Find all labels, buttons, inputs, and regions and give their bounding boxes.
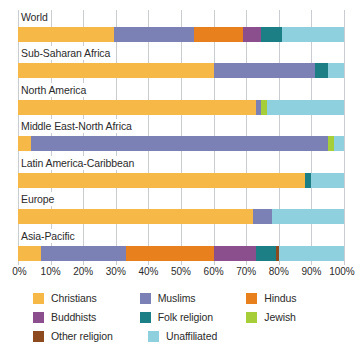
row-label: World xyxy=(20,10,50,24)
bar-segment-unaffiliated xyxy=(328,63,344,78)
x-tick-label: 100% xyxy=(329,266,355,277)
bar-row: Middle East-North Africa xyxy=(18,119,344,155)
x-tick-label: 80% xyxy=(269,266,289,277)
x-tick-label: 0% xyxy=(12,266,26,277)
legend-swatch-icon xyxy=(246,312,257,323)
legend-label: Unaffiliated xyxy=(166,330,217,342)
row-label: North America xyxy=(20,83,88,97)
legend-row: Other religionUnaffiliated xyxy=(33,327,353,345)
stacked-bar-chart: WorldSub-Saharan AfricaNorth AmericaMidd… xyxy=(0,0,361,352)
bar-segment-buddhists xyxy=(243,27,261,42)
bar-row: North America xyxy=(18,83,344,119)
bar-segment-unaffiliated xyxy=(279,246,344,261)
legend-item-folk-religion[interactable]: Folk religion xyxy=(140,308,247,326)
stacked-bar xyxy=(18,27,344,42)
legend-swatch-icon xyxy=(140,312,151,323)
x-tick-label: 40% xyxy=(138,266,158,277)
bar-segment-muslims xyxy=(41,246,126,261)
legend-label: Christians xyxy=(51,292,97,304)
row-label: Asia-Pacific xyxy=(20,229,77,243)
legend-swatch-icon xyxy=(246,293,257,304)
bar-segment-folk-religion xyxy=(315,63,328,78)
bar-segment-christians xyxy=(18,246,41,261)
bar-row: Europe xyxy=(18,192,344,228)
stacked-bar xyxy=(18,209,344,224)
bar-segment-hindus xyxy=(126,246,214,261)
bar-segment-christians xyxy=(18,100,256,115)
legend-swatch-icon xyxy=(140,293,151,304)
bar-segment-christians xyxy=(18,209,253,224)
plot-area: WorldSub-Saharan AfricaNorth AmericaMidd… xyxy=(18,10,344,265)
legend-label: Buddhists xyxy=(51,311,96,323)
bar-row: Latin America-Caribbean xyxy=(18,156,344,192)
bar-segment-muslims xyxy=(214,63,315,78)
legend-label: Folk religion xyxy=(158,311,213,323)
chart-legend: ChristiansMuslimsHindusBuddhistsFolk rel… xyxy=(33,289,353,347)
row-label: Sub-Saharan Africa xyxy=(20,46,112,60)
legend-swatch-icon xyxy=(33,312,44,323)
bar-row: Asia-Pacific xyxy=(18,229,344,265)
bar-segment-unaffiliated xyxy=(267,100,344,115)
bar-segment-folk-religion xyxy=(261,27,282,42)
stacked-bar xyxy=(18,100,344,115)
stacked-bar xyxy=(18,136,344,151)
row-label: Middle East-North Africa xyxy=(20,119,134,133)
x-tick-label: 10% xyxy=(41,266,61,277)
bar-segment-unaffiliated xyxy=(311,173,344,188)
legend-label: Other religion xyxy=(51,330,113,342)
bar-segment-unaffiliated xyxy=(272,209,344,224)
bar-row: Sub-Saharan Africa xyxy=(18,46,344,82)
legend-label: Hindus xyxy=(264,292,296,304)
legend-label: Muslims xyxy=(158,292,196,304)
bar-segment-christians xyxy=(18,136,31,151)
legend-item-muslims[interactable]: Muslims xyxy=(140,289,247,307)
bar-segment-muslims xyxy=(31,136,328,151)
legend-item-christians[interactable]: Christians xyxy=(33,289,140,307)
stacked-bar xyxy=(18,173,344,188)
x-tick-label: 20% xyxy=(73,266,93,277)
legend-label: Jewish xyxy=(264,311,296,323)
x-tick-label: 50% xyxy=(171,266,191,277)
stacked-bar xyxy=(18,63,344,78)
legend-row: BuddhistsFolk religionJewish xyxy=(33,308,353,326)
bar-segment-muslims xyxy=(253,209,273,224)
x-tick-label: 70% xyxy=(236,266,256,277)
x-axis: 0%10%20%30%40%50%60%70%80%90%100% xyxy=(18,266,344,282)
bar-segment-buddhists xyxy=(214,246,256,261)
bar-segment-christians xyxy=(18,27,114,42)
x-tick-label: 60% xyxy=(204,266,224,277)
row-label: Europe xyxy=(20,192,56,206)
legend-item-unaffiliated[interactable]: Unaffiliated xyxy=(148,327,263,345)
bar-segment-unaffiliated xyxy=(334,136,344,151)
bar-segment-christians xyxy=(18,63,214,78)
legend-item-other-religion[interactable]: Other religion xyxy=(33,327,148,345)
legend-item-hindus[interactable]: Hindus xyxy=(246,289,353,307)
legend-swatch-icon xyxy=(33,331,44,342)
legend-item-buddhists[interactable]: Buddhists xyxy=(33,308,140,326)
gridline-100 xyxy=(344,10,345,265)
legend-swatch-icon xyxy=(148,331,159,342)
row-label: Latin America-Caribbean xyxy=(20,156,136,170)
bar-segment-christians xyxy=(18,173,305,188)
legend-row: ChristiansMuslimsHindus xyxy=(33,289,353,307)
x-tick-label: 30% xyxy=(106,266,126,277)
bar-segment-hindus xyxy=(194,27,243,42)
legend-item-jewish[interactable]: Jewish xyxy=(246,308,353,326)
bar-segment-unaffiliated xyxy=(282,27,344,42)
bar-segment-folk-religion xyxy=(256,246,276,261)
bar-row: World xyxy=(18,10,344,46)
stacked-bar xyxy=(18,246,344,261)
x-tick-label: 90% xyxy=(301,266,321,277)
legend-swatch-icon xyxy=(33,293,44,304)
bar-segment-muslims xyxy=(114,27,194,42)
